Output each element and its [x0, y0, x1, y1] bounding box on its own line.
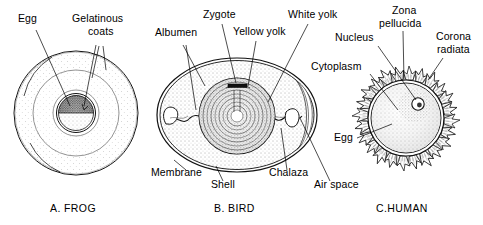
caption-human: C.HUMAN	[376, 202, 428, 214]
label-bird-albumen: Albumen	[155, 26, 197, 38]
egg-comparison-figure: Egg Gelatinous coats A. FROG	[0, 0, 483, 225]
label-human-cytoplasm: Cytoplasm	[311, 60, 362, 72]
label-frog-egg: Egg	[18, 12, 37, 24]
label-human-corona-radiata-1: Corona	[436, 30, 471, 42]
label-human-egg: Egg	[334, 131, 353, 143]
label-human-corona-radiata-2: radiata	[437, 43, 470, 55]
caption-bird: B. BIRD	[214, 202, 255, 214]
bird-chalaza-right-knob	[285, 109, 299, 127]
label-bird-white-yolk: White yolk	[288, 8, 338, 20]
human-nucleolus	[417, 103, 422, 108]
label-frog-gelatinous-coats-2: coats	[88, 25, 114, 37]
label-human-zona-pellucida-2: pellucida	[379, 17, 421, 29]
label-human-nucleus: Nucleus	[335, 31, 374, 43]
label-bird-yellow-yolk: Yellow yolk	[233, 25, 286, 37]
caption-frog: A. FROG	[50, 202, 96, 214]
label-frog-gelatinous-coats-1: Gelatinous	[72, 12, 123, 24]
label-bird-shell: Shell	[211, 178, 235, 190]
label-bird-membrane: Membrane	[151, 166, 202, 178]
bird-latebra-core	[231, 110, 243, 122]
diagram-canvas: Egg Gelatinous coats A. FROG	[0, 0, 483, 225]
label-bird-air-space: Air space	[314, 178, 359, 190]
label-human-zona-pellucida-1: Zona	[392, 4, 416, 16]
human-cytoplasm-texture	[372, 84, 440, 152]
label-bird-chalaza: Chalaza	[269, 166, 308, 178]
label-bird-zygote: Zygote	[203, 8, 236, 20]
